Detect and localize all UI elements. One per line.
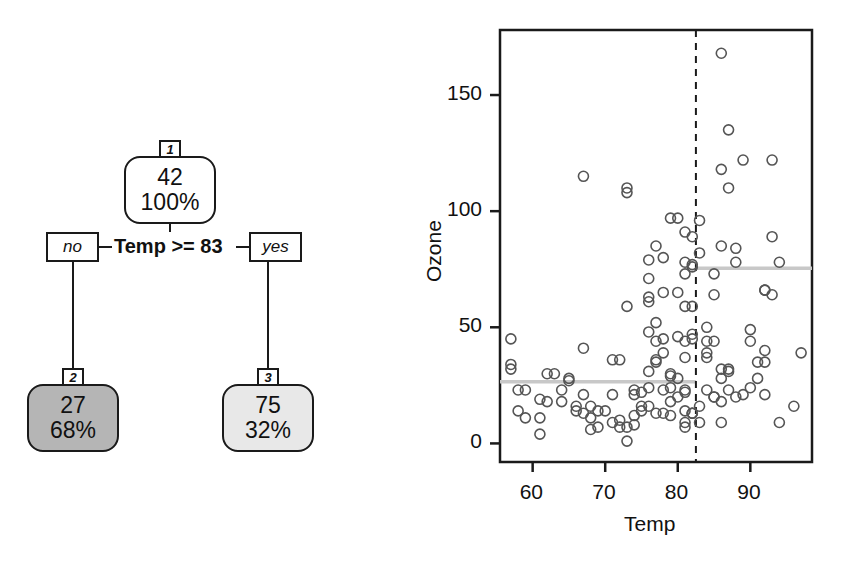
- split-condition-label: Temp >= 83: [112, 235, 225, 258]
- x-axis-title: Temp: [624, 512, 675, 536]
- data-point: [615, 422, 625, 432]
- data-point: [702, 322, 712, 332]
- data-point: [687, 232, 697, 242]
- data-point: [680, 227, 690, 237]
- data-point: [607, 390, 617, 400]
- y-tick-label-150: 150: [447, 81, 482, 105]
- node-tag-leaf-2: 2: [62, 368, 84, 386]
- node-tag-leaf-3-label: 3: [264, 371, 271, 384]
- data-point: [506, 334, 516, 344]
- x-tick-label-80: 80: [665, 480, 688, 504]
- data-point: [658, 253, 668, 263]
- y-tick-label-50: 50: [459, 313, 482, 337]
- data-point: [709, 392, 719, 402]
- tree-node-leaf-2-value: 27: [60, 393, 86, 418]
- data-point: [767, 290, 777, 300]
- data-point: [760, 346, 770, 356]
- data-point: [666, 369, 676, 379]
- data-point: [753, 357, 763, 367]
- x-tick-label-90: 90: [737, 480, 760, 504]
- scatter-plot-panel: 05010015060708090 Temp Ozone: [410, 0, 846, 573]
- data-point: [644, 274, 654, 284]
- data-point: [578, 171, 588, 181]
- tree-node-root[interactable]: 42 100%: [124, 156, 216, 224]
- tree-node-leaf-3-percent: 32%: [245, 418, 291, 443]
- y-tick-label-0: 0: [470, 429, 482, 453]
- data-point: [644, 255, 654, 265]
- data-point: [767, 232, 777, 242]
- data-point: [731, 257, 741, 267]
- data-point: [622, 301, 632, 311]
- split-condition-text: Temp >= 83: [114, 235, 223, 257]
- data-point: [760, 285, 770, 295]
- data-point: [774, 418, 784, 428]
- data-point: [745, 383, 755, 393]
- data-point: [520, 413, 530, 423]
- decision-tree-panel: 1 42 100% no Temp >= 83 yes 2 27 68% 3 7: [0, 0, 410, 573]
- data-point: [622, 436, 632, 446]
- data-point: [578, 390, 588, 400]
- data-point: [666, 213, 676, 223]
- data-point: [745, 325, 755, 335]
- tree-node-root-percent: 100%: [141, 190, 200, 215]
- tree-node-leaf-3[interactable]: 75 32%: [222, 384, 314, 452]
- data-point: [673, 332, 683, 342]
- y-axis-ticks: [490, 95, 500, 443]
- node-tag-root: 1: [159, 140, 181, 158]
- data-point: [651, 318, 661, 328]
- data-point: [716, 418, 726, 428]
- data-point: [644, 366, 654, 376]
- data-point: [702, 336, 712, 346]
- y-tick-label-100: 100: [447, 197, 482, 221]
- data-point: [760, 390, 770, 400]
- data-point: [745, 336, 755, 346]
- data-point: [644, 383, 654, 393]
- data-point: [724, 183, 734, 193]
- node-tag-leaf-3: 3: [257, 368, 279, 386]
- data-point: [600, 406, 610, 416]
- data-point: [607, 355, 617, 365]
- y-axis-title-text: Ozone: [422, 220, 445, 282]
- data-point: [644, 327, 654, 337]
- data-point: [658, 287, 668, 297]
- data-point: [774, 257, 784, 267]
- data-point: [709, 269, 719, 279]
- data-point: [716, 241, 726, 251]
- tree-node-root-value: 42: [157, 165, 183, 190]
- tree-node-leaf-2-percent: 68%: [50, 418, 96, 443]
- node-tag-root-label: 1: [166, 143, 173, 156]
- tree-node-leaf-3-value: 75: [255, 393, 281, 418]
- data-point: [680, 385, 690, 395]
- data-point: [753, 373, 763, 383]
- data-point: [651, 241, 661, 251]
- x-tick-label-60: 60: [520, 480, 543, 504]
- figure-root: 1 42 100% no Temp >= 83 yes 2 27 68% 3 7: [0, 0, 846, 573]
- data-point: [673, 287, 683, 297]
- data-point: [651, 357, 661, 367]
- data-point: [513, 385, 523, 395]
- data-points: [506, 48, 806, 446]
- branch-label-yes[interactable]: yes: [249, 232, 302, 262]
- x-axis-ticks: [533, 462, 751, 472]
- data-point: [767, 155, 777, 165]
- data-point: [716, 48, 726, 58]
- y-axis-title: Ozone: [422, 220, 446, 282]
- data-point: [796, 348, 806, 358]
- data-point: [716, 397, 726, 407]
- data-point: [586, 401, 596, 411]
- data-point: [724, 125, 734, 135]
- data-point: [738, 155, 748, 165]
- data-point: [731, 243, 741, 253]
- branch-label-no[interactable]: no: [46, 232, 99, 262]
- data-point: [535, 429, 545, 439]
- data-point: [716, 164, 726, 174]
- data-point: [789, 401, 799, 411]
- branch-label-yes-text: yes: [262, 237, 288, 257]
- data-point: [549, 369, 559, 379]
- data-point: [651, 355, 661, 365]
- node-tag-leaf-2-label: 2: [69, 371, 76, 384]
- data-point: [644, 401, 654, 411]
- branch-label-no-text: no: [63, 237, 82, 257]
- data-point: [535, 413, 545, 423]
- tree-node-leaf-2[interactable]: 27 68%: [27, 384, 119, 452]
